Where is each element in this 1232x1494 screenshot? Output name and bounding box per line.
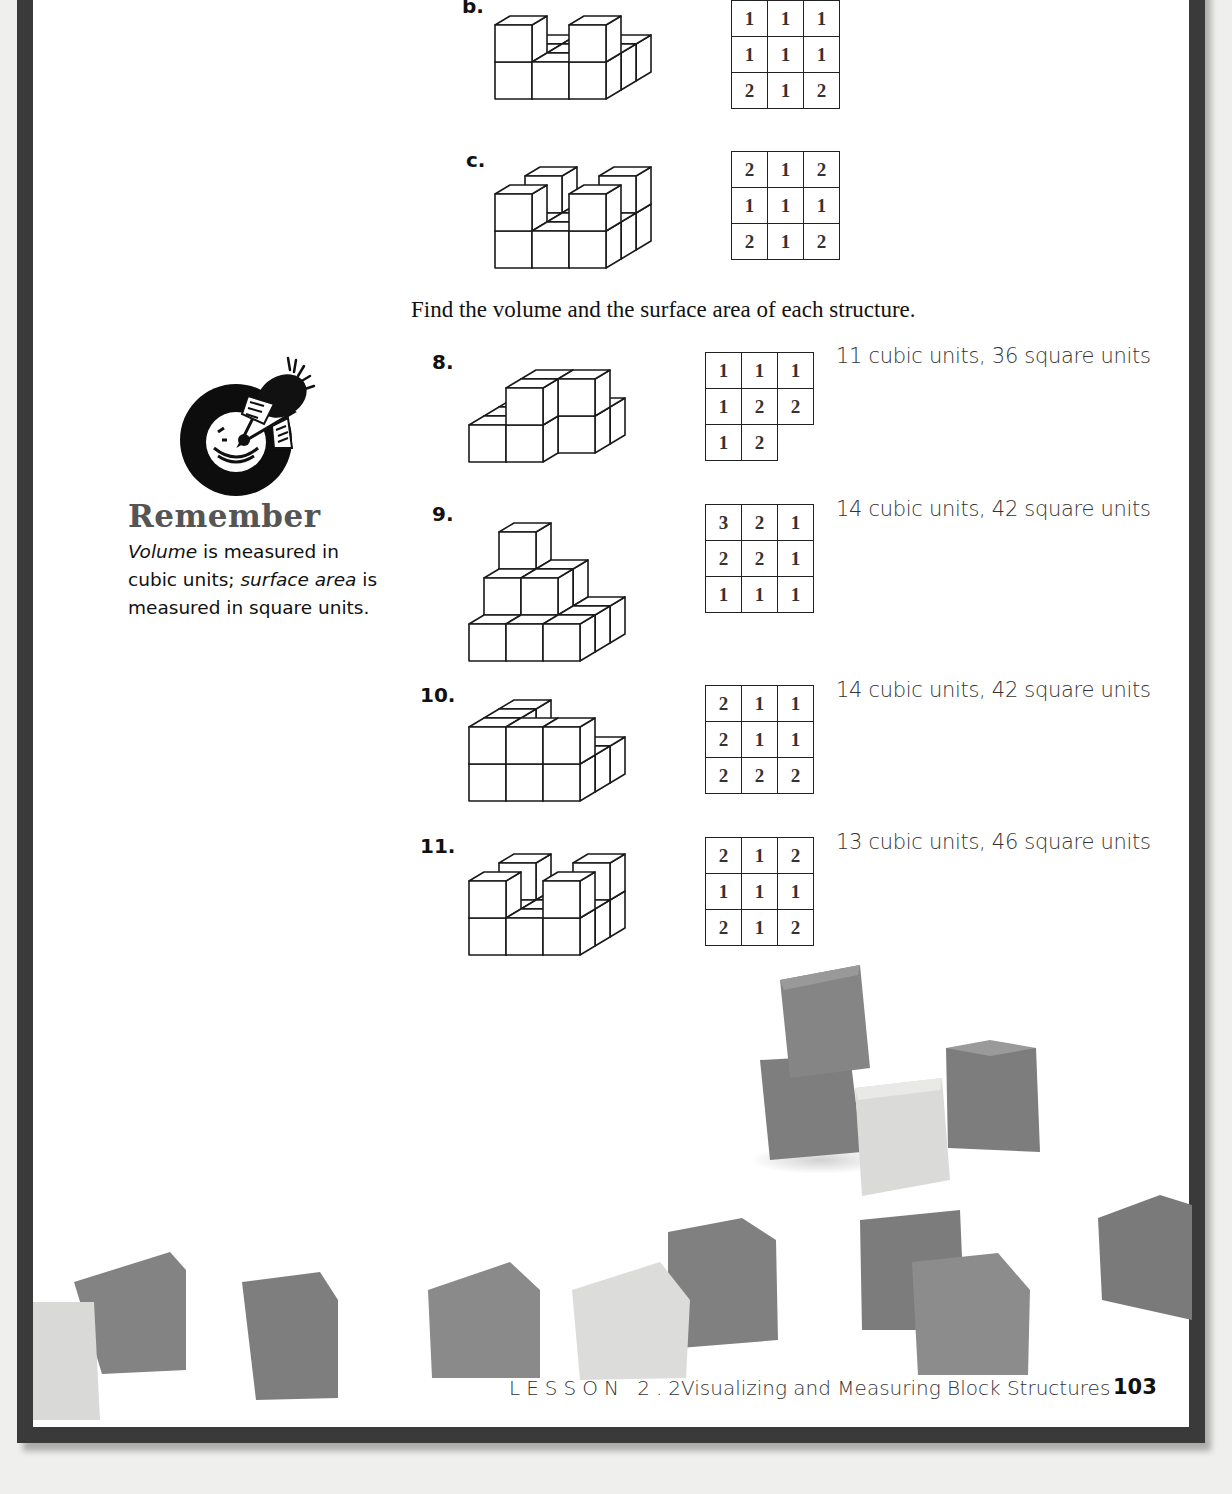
exercise-8-label: 8. [432, 350, 454, 374]
exercise-11-height-grid: 212111212 [705, 837, 814, 946]
grid-cell: 1 [778, 686, 814, 722]
grid-row: 111 [706, 353, 814, 389]
grid-cell: 1 [778, 353, 814, 389]
grid-cell: 1 [742, 686, 778, 722]
remember-note: Volume is measured in cubic units; surfa… [128, 538, 378, 622]
exercise-8-height-grid: 11112212 [705, 352, 814, 461]
grid-row: 212 [732, 224, 840, 260]
grid-cell: 1 [804, 37, 840, 73]
grid-cell: 1 [742, 874, 778, 910]
grid-cell: 1 [768, 224, 804, 260]
grid-cell: 3 [706, 505, 742, 541]
grid-cell: 1 [778, 722, 814, 758]
grid-cell: 2 [732, 224, 768, 260]
grid-cell: 1 [804, 1, 840, 37]
footer-lesson-title: Visualizing and Measuring Block Structur… [681, 1376, 1110, 1400]
grid-cell: 2 [732, 152, 768, 188]
grid-row: 211 [706, 686, 814, 722]
grid-cell: 1 [742, 577, 778, 613]
instruction-text: Find the volume and the surface area of … [411, 297, 916, 323]
exercise-11-structure [0, 0, 1, 18]
megaphone-icon [178, 352, 328, 502]
grid-cell: 1 [732, 188, 768, 224]
grid-cell: 1 [706, 425, 742, 461]
exercise-8-answer: 11 cubic units, 36 square units [836, 344, 1151, 368]
grid-cell: 2 [742, 541, 778, 577]
grid-row: 212 [732, 152, 840, 188]
exercise-9-label: 9. [432, 502, 454, 526]
exercise-10-height-grid: 211211222 [705, 685, 814, 794]
grid-cell: 2 [778, 758, 814, 794]
grid-cell: 1 [768, 152, 804, 188]
remember-term-surface-area: surface area [240, 569, 356, 590]
grid-cell: 1 [778, 577, 814, 613]
grid-cell: 1 [768, 1, 804, 37]
example-c-label: c. [466, 148, 485, 172]
grid-cell: 1 [706, 353, 742, 389]
grid-row: 111 [732, 188, 840, 224]
grid-cell: 1 [768, 73, 804, 109]
example-b-label: b. [462, 0, 484, 18]
remember-title: Remember [128, 498, 321, 534]
grid-cell: 1 [778, 541, 814, 577]
grid-cell: 1 [804, 188, 840, 224]
grid-cell: 1 [768, 188, 804, 224]
exercise-9-answer: 14 cubic units, 42 square units [836, 497, 1151, 521]
footer-lesson-number: LESSON 2.2 [509, 1376, 687, 1400]
grid-cell: 1 [742, 353, 778, 389]
grid-cell: 1 [742, 910, 778, 946]
grid-cell: 2 [804, 73, 840, 109]
grid-cell: 1 [768, 37, 804, 73]
exercise-10-answer: 14 cubic units, 42 square units [836, 678, 1151, 702]
grid-cell: 2 [778, 910, 814, 946]
grid-row: 212 [706, 838, 814, 874]
grid-cell: 2 [742, 389, 778, 425]
grid-row: 12 [706, 425, 814, 461]
exercise-9-height-grid: 321221111 [705, 504, 814, 613]
grid-row: 212 [732, 73, 840, 109]
grid-cell: 2 [706, 722, 742, 758]
example-c-height-grid: 212111212 [731, 151, 840, 260]
remember-term-volume: Volume [128, 541, 197, 562]
grid-row: 111 [732, 37, 840, 73]
grid-row: 221 [706, 541, 814, 577]
exercise-11-answer: 13 cubic units, 46 square units [836, 830, 1151, 854]
grid-cell: 2 [706, 541, 742, 577]
grid-row: 211 [706, 722, 814, 758]
grid-row: 122 [706, 389, 814, 425]
grid-cell: 2 [706, 910, 742, 946]
grid-cell: 1 [742, 838, 778, 874]
grid-cell [778, 425, 814, 461]
grid-cell: 1 [778, 874, 814, 910]
grid-cell: 2 [742, 425, 778, 461]
grid-cell: 1 [742, 722, 778, 758]
grid-cell: 1 [778, 505, 814, 541]
grid-cell: 1 [732, 37, 768, 73]
grid-cell: 1 [732, 1, 768, 37]
grid-row: 212 [706, 910, 814, 946]
grid-row: 111 [706, 874, 814, 910]
grid-cell: 1 [706, 389, 742, 425]
grid-row: 111 [706, 577, 814, 613]
exercise-11-label: 11. [420, 834, 455, 858]
grid-cell: 2 [804, 152, 840, 188]
grid-cell: 2 [804, 224, 840, 260]
grid-cell: 2 [732, 73, 768, 109]
exercise-10-label: 10. [420, 683, 455, 707]
page-number: 103 [1113, 1375, 1157, 1399]
grid-cell: 1 [706, 577, 742, 613]
grid-cell: 2 [706, 686, 742, 722]
grid-cell: 2 [706, 838, 742, 874]
grid-row: 222 [706, 758, 814, 794]
grid-cell: 2 [778, 838, 814, 874]
grid-row: 321 [706, 505, 814, 541]
example-b-height-grid: 111111212 [731, 0, 840, 109]
grid-cell: 1 [706, 874, 742, 910]
grid-cell: 2 [706, 758, 742, 794]
grid-row: 111 [732, 1, 840, 37]
grid-cell: 2 [778, 389, 814, 425]
grid-cell: 2 [742, 758, 778, 794]
grid-cell: 2 [742, 505, 778, 541]
